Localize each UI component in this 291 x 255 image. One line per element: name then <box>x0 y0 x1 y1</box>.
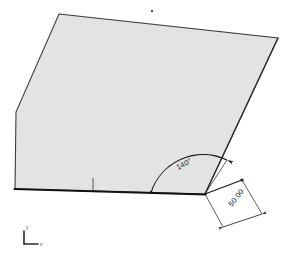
x-axis-label: x <box>40 242 43 247</box>
sketch-svg[interactable]: 140° 50.00 y x <box>0 0 291 255</box>
cad-drawing-canvas[interactable]: 140° 50.00 y x <box>0 0 291 255</box>
length-dimension-label[interactable]: 50.00 <box>226 187 245 208</box>
extension-line-right <box>242 180 262 214</box>
angle-arc-start-dot <box>149 191 152 194</box>
coordinate-triad[interactable]: y x <box>24 225 43 247</box>
shaded-face[interactable] <box>15 14 278 194</box>
dimension-line[interactable] <box>223 214 262 227</box>
sketch-point[interactable] <box>151 10 153 12</box>
extension-line-left <box>205 194 223 227</box>
y-axis-label: y <box>26 225 29 230</box>
